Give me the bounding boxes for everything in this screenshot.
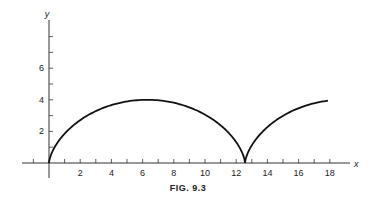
y-tick-label: 2 — [39, 126, 44, 136]
x-axis-label: x — [353, 159, 359, 169]
x-tick-label: 18 — [325, 168, 335, 178]
x-tick-label: 8 — [171, 168, 176, 178]
y-tick-label: 6 — [39, 63, 44, 73]
x-tick-label: 2 — [78, 168, 83, 178]
x-tick-label: 6 — [140, 168, 145, 178]
x-tick-label: 14 — [262, 168, 272, 178]
x-tick-label: 16 — [294, 168, 304, 178]
x-tick-label: 10 — [200, 168, 210, 178]
x-tick-label: 4 — [109, 168, 114, 178]
figure-caption: FIG. 9.3 — [0, 183, 376, 193]
cycloid-curve — [49, 100, 328, 163]
y-tick-label: 4 — [39, 95, 44, 105]
y-axis-label: y — [44, 9, 50, 19]
x-tick-label: 12 — [231, 168, 241, 178]
figure: 24681012141618246xy FIG. 9.3 — [0, 0, 376, 215]
